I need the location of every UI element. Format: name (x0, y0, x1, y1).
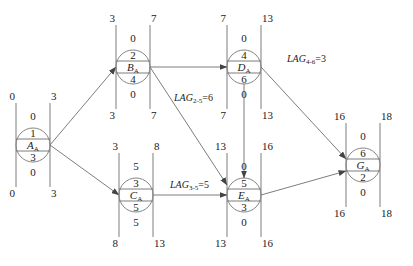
earliest-start: 16 (334, 110, 346, 122)
latest-finish: 7 (151, 109, 157, 121)
edge-a-b (50, 67, 116, 145)
node-id: 3 (133, 177, 139, 189)
latest-start: 8 (113, 237, 119, 249)
node-duration: 3 (241, 201, 247, 213)
node-d: 4DA671300713 (221, 12, 274, 121)
earliest-finish: 7 (151, 12, 157, 24)
edge-b-e (150, 67, 227, 185)
latest-finish: 3 (51, 187, 57, 199)
node-duration: 5 (133, 201, 139, 213)
node-a: 1AA3030003 (10, 90, 58, 199)
latest-start: 7 (221, 109, 227, 121)
node-duration: 4 (130, 73, 136, 85)
lag-text: LAG (173, 92, 193, 103)
earliest-start: 3 (113, 140, 119, 152)
total-float: 0 (30, 110, 36, 122)
earliest-start: 13 (215, 140, 227, 152)
lag-value: =5 (198, 179, 209, 190)
latest-finish: 18 (381, 207, 393, 219)
total-float: 0 (360, 130, 366, 142)
lag-label-4-6: LAG4-6=3 (286, 53, 326, 66)
edge-a-c (50, 145, 119, 195)
node-duration: 3 (30, 151, 36, 163)
lag-subscript: 3-5 (189, 184, 199, 192)
node-id: 5 (241, 177, 247, 189)
lag-text: LAG (286, 53, 306, 64)
node-id: 6 (360, 147, 366, 159)
latest-start: 3 (110, 109, 116, 121)
lag-text: LAG (169, 179, 189, 190)
node-name-main: G (356, 159, 364, 171)
earliest-finish: 13 (262, 12, 274, 24)
edge-e-g (261, 171, 346, 195)
earliest-start: 7 (221, 12, 227, 24)
latest-finish: 16 (262, 237, 274, 249)
node-name-main: D (236, 61, 245, 73)
free-float: 0 (241, 88, 247, 100)
total-float: 0 (241, 160, 247, 172)
latest-finish: 13 (262, 109, 274, 121)
node-b: 2BA4370037 (110, 12, 158, 121)
latest-start: 0 (10, 187, 16, 199)
node-id: 1 (30, 127, 36, 139)
earliest-finish: 16 (262, 140, 274, 152)
earliest-start: 0 (10, 90, 16, 102)
free-float: 0 (30, 166, 36, 178)
edges-layer (50, 67, 346, 195)
node-id: 2 (130, 49, 136, 61)
earliest-finish: 3 (51, 90, 57, 102)
total-float: 0 (241, 32, 247, 44)
network-diagram: 1AA30300032BA43700373CA538558134DA671300… (0, 0, 413, 266)
total-float: 0 (130, 32, 136, 44)
free-float: 5 (133, 216, 139, 228)
earliest-start: 3 (110, 12, 116, 24)
lag-subscript: 2-5 (193, 97, 203, 105)
node-c: 3CA53855813 (113, 140, 166, 249)
lag-value: =6 (202, 92, 213, 103)
node-g: 6GA21618001618 (334, 110, 393, 219)
free-float: 0 (130, 88, 136, 100)
node-duration: 2 (360, 171, 366, 183)
lag-subscript: 4-6 (306, 58, 316, 66)
node-duration: 6 (241, 73, 247, 85)
total-float: 5 (133, 160, 139, 172)
earliest-finish: 8 (154, 140, 160, 152)
free-float: 0 (241, 216, 247, 228)
earliest-finish: 18 (381, 110, 393, 122)
node-id: 4 (241, 49, 247, 61)
nodes-layer: 1AA30300032BA43700373CA538558134DA671300… (10, 12, 393, 249)
lag-label-3-5: LAG3-5=5 (169, 179, 209, 192)
lag-value: =3 (315, 53, 326, 64)
latest-start: 13 (215, 237, 227, 249)
latest-start: 16 (334, 207, 346, 219)
lag-label-2-5: LAG2-5=6 (173, 92, 213, 105)
free-float: 0 (360, 186, 366, 198)
latest-finish: 13 (154, 237, 166, 249)
